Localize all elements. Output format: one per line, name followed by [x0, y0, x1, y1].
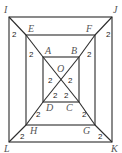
- vertex-label-d: D: [45, 102, 54, 113]
- length-label-hd: 2: [36, 110, 41, 119]
- length-label-jf: 2: [106, 30, 111, 39]
- length-label-gc: 2: [82, 110, 87, 119]
- vertex-label-f: F: [85, 23, 93, 34]
- vertex-label-i: I: [3, 4, 8, 15]
- vertex-label-h: H: [29, 125, 38, 136]
- vertex-label-j: J: [113, 4, 118, 15]
- length-label-ea: 2: [29, 50, 34, 59]
- length-label-ao: 2: [48, 76, 53, 85]
- length-label-kg: 2: [98, 132, 103, 141]
- length-label-bo: 2: [68, 76, 73, 85]
- length-label-co: 2: [64, 91, 69, 100]
- center-label-o: O: [57, 63, 64, 74]
- nested-squares-diagram: I J K L E F G H A B C D O 2 2 2 2 2 2 2 …: [0, 0, 122, 153]
- length-label-ie: 2: [12, 30, 17, 39]
- length-label-do: 2: [53, 91, 58, 100]
- vertex-label-g: G: [83, 125, 90, 136]
- length-label-fb: 2: [87, 50, 92, 59]
- vertex-label-b: B: [71, 45, 77, 56]
- vertex-label-c: C: [66, 102, 73, 113]
- vertex-label-l: L: [3, 143, 10, 153]
- vertex-label-k: K: [110, 143, 119, 153]
- length-label-lh: 2: [20, 132, 25, 141]
- vertex-label-e: E: [27, 23, 34, 34]
- vertex-label-a: A: [44, 45, 52, 56]
